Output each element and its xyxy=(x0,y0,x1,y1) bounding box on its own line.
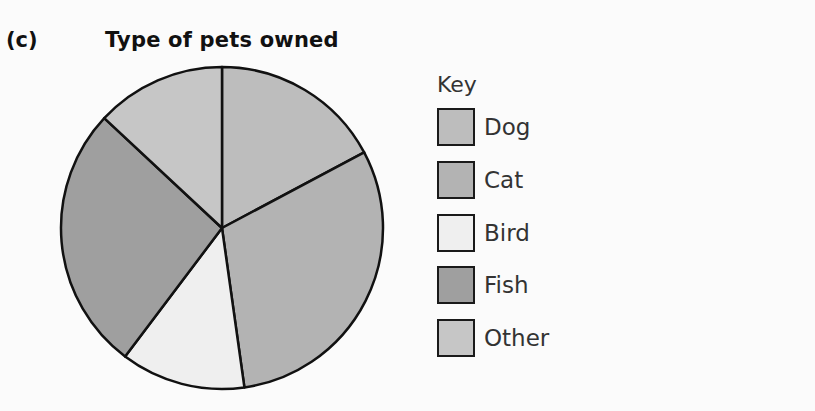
key-label: Dog xyxy=(484,114,530,140)
dog-swatch xyxy=(437,108,475,146)
key-title: Key xyxy=(437,72,477,97)
other-swatch xyxy=(437,319,475,357)
cat-swatch xyxy=(437,161,475,199)
pie-chart xyxy=(0,0,815,411)
key-item-other: Other xyxy=(437,318,549,358)
fish-swatch xyxy=(437,266,475,304)
key-label: Cat xyxy=(484,167,523,193)
key-item-fish: Fish xyxy=(437,265,529,305)
key-label: Fish xyxy=(484,272,529,298)
key-label: Bird xyxy=(484,220,530,246)
key-item-dog: Dog xyxy=(437,107,530,147)
bird-swatch xyxy=(437,214,475,252)
key-label: Other xyxy=(484,325,549,351)
key-item-cat: Cat xyxy=(437,160,523,200)
key-item-bird: Bird xyxy=(437,213,530,253)
